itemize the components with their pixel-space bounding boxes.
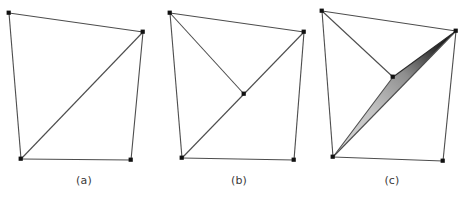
edge-interior — [170, 13, 244, 94]
edge-boundary-bottom — [182, 158, 294, 160]
edge-boundary-top — [170, 13, 304, 32]
edge-boundary-right — [294, 32, 304, 160]
panel-caption-b: (b) — [209, 174, 269, 187]
edge-diagonal — [21, 32, 143, 159]
edge-boundary-bottom — [21, 159, 131, 160]
panel-b-edges — [170, 13, 304, 160]
vertex-top-left — [7, 11, 11, 15]
edge-boundary-left — [322, 11, 333, 157]
vertex-top-right — [454, 29, 458, 33]
vertex-bottom-right — [129, 158, 133, 162]
vertex-top-left — [168, 11, 172, 15]
panel-caption-c: (c) — [362, 174, 422, 187]
panel-a — [7, 11, 145, 162]
panel-b — [168, 11, 306, 162]
edge-boundary-left — [170, 13, 182, 158]
panel-a-vertices — [7, 11, 145, 162]
figure-container: (a) (b) (c) — [0, 0, 468, 197]
vertex-bottom-right — [292, 158, 296, 162]
vertex-bottom-left — [19, 157, 23, 161]
edge-boundary-left — [9, 13, 21, 159]
triangulation-diagram — [0, 0, 468, 197]
vertex-top-left — [320, 9, 324, 13]
edge-boundary-bottom — [333, 157, 443, 161]
edge-sliver-upper — [393, 31, 456, 77]
edge-diagonal — [333, 31, 456, 157]
vertex-top-right — [141, 30, 145, 34]
vertex-interior — [391, 75, 395, 79]
edge-boundary-right — [131, 32, 143, 160]
vertex-interior — [242, 92, 246, 96]
edge-interior — [322, 11, 393, 77]
edge-boundary-top — [322, 11, 456, 31]
vertex-bottom-left — [331, 155, 335, 159]
vertex-bottom-right — [441, 159, 445, 163]
panel-caption-a: (a) — [54, 174, 114, 187]
edge-sliver — [333, 77, 393, 157]
edge-boundary-top — [9, 13, 143, 32]
panel-a-edges — [9, 13, 143, 160]
vertex-top-right — [302, 30, 306, 34]
vertex-bottom-left — [180, 156, 184, 160]
panel-c — [320, 9, 458, 163]
edge-boundary-right — [443, 31, 456, 161]
